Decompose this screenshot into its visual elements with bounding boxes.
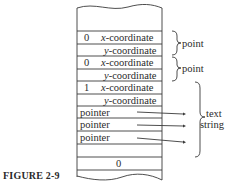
y-coordinate-label: y-coordinate <box>104 45 156 57</box>
x-coordinate-label: x-coordinate <box>101 82 153 94</box>
string-label: string <box>200 119 224 130</box>
pointer-label: pointer <box>80 132 110 144</box>
pointer-arrows <box>137 112 183 142</box>
pointer-label: pointer <box>80 107 110 119</box>
bottom-wavy-edge <box>77 174 162 180</box>
terminator-zero: 0 <box>116 158 121 170</box>
coord-suffix: -coordinate <box>106 57 154 68</box>
x-coordinate-label: x-coordinate <box>101 57 153 69</box>
point-label-2: point <box>182 63 204 74</box>
y-coordinate-label: y-coordinate <box>104 70 156 82</box>
y-coordinate-label: y-coordinate <box>104 95 156 107</box>
coord-suffix: -coordinate <box>106 82 154 93</box>
text-label: text <box>206 108 222 119</box>
coord-suffix: -coordinate <box>109 45 157 56</box>
tag-0: 0 <box>84 57 89 69</box>
coord-suffix: -coordinate <box>106 32 154 43</box>
brace-point-2 <box>172 57 181 81</box>
pointer-label: pointer <box>80 119 110 131</box>
figure-caption: FIGURE 2-9 <box>3 170 60 181</box>
x-coordinate-label: x-coordinate <box>101 32 153 44</box>
top-wavy-edge <box>77 4 162 8</box>
point-label-1: point <box>182 38 204 49</box>
brace-point-1 <box>172 31 181 55</box>
coord-suffix: -coordinate <box>109 70 157 81</box>
tag-0: 0 <box>84 32 89 44</box>
tag-1: 1 <box>84 82 89 94</box>
coord-suffix: -coordinate <box>109 95 157 106</box>
